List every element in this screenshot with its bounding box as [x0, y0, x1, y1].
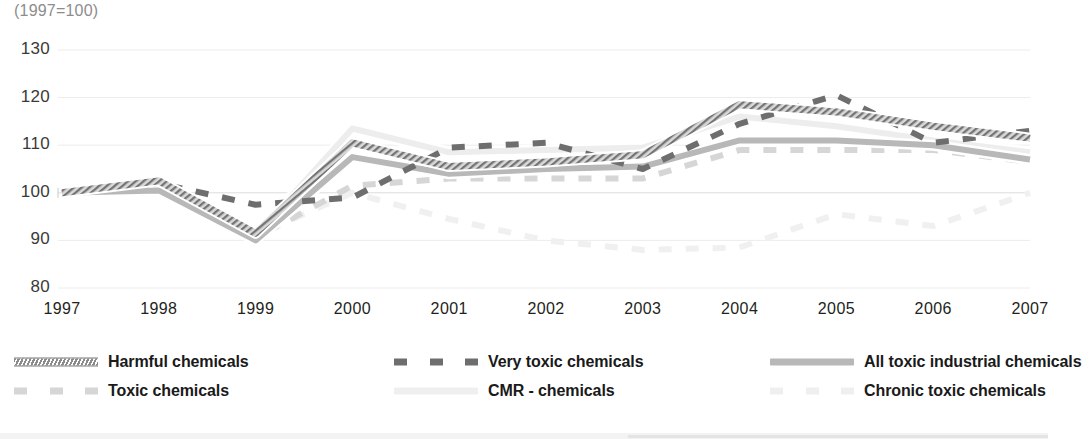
x-axis-tick-2002: 2002: [504, 300, 588, 318]
legend-swatch-line: [394, 359, 478, 366]
legend-item-toxic-chemicals[interactable]: Toxic chemicals: [14, 378, 229, 404]
y-axis-tick-120: 120: [2, 87, 50, 107]
x-axis-tick-2004: 2004: [698, 300, 782, 318]
legend-swatch-line: [770, 359, 854, 366]
legend-label: Toxic chemicals: [108, 382, 229, 400]
x-axis-tick-2000: 2000: [310, 300, 394, 318]
x-axis-tick-1997: 1997: [20, 300, 104, 318]
x-axis-tick-1999: 1999: [214, 300, 298, 318]
legend-swatch-line: [770, 388, 854, 395]
y-axis-tick-110: 110: [2, 134, 50, 154]
legend-label: Chronic toxic chemicals: [864, 382, 1046, 400]
plot-area: [0, 0, 1048, 300]
legend-label: All toxic industrial chemicals: [864, 353, 1082, 371]
dashed-swatch: [394, 355, 478, 369]
legend-label: CMR - chemicals: [488, 382, 615, 400]
legend-label: Harmful chemicals: [108, 353, 249, 371]
dashed-swatch: [770, 384, 854, 398]
x-axis-tick-1998: 1998: [117, 300, 201, 318]
dashed-swatch: [14, 384, 98, 398]
footer-rule: [0, 433, 1048, 439]
y-axis-tick-130: 130: [2, 39, 50, 59]
y-axis-tick-80: 80: [2, 277, 50, 297]
chart-legend: Harmful chemicalsVery toxic chemicalsAll…: [0, 343, 1048, 409]
y-axis-tick-90: 90: [2, 229, 50, 249]
legend-item-very-toxic-chemicals[interactable]: Very toxic chemicals: [394, 349, 643, 375]
x-axis-tick-2001: 2001: [407, 300, 491, 318]
x-axis-tick-2005: 2005: [794, 300, 878, 318]
hatched-swatch: [14, 355, 98, 369]
legend-swatch-line: [394, 388, 478, 395]
x-axis-tick-2007: 2007: [988, 300, 1072, 318]
solid-swatch: [394, 384, 478, 398]
y-axis-tick-100: 100: [2, 182, 50, 202]
x-axis-tick-2006: 2006: [891, 300, 975, 318]
legend-swatch-line: [14, 388, 98, 395]
footer-rule-accent: [628, 435, 1048, 438]
legend-item-harmful-chemicals[interactable]: Harmful chemicals: [14, 349, 249, 375]
legend-item-all-toxic-industrial-chemicals[interactable]: All toxic industrial chemicals: [770, 349, 1082, 375]
legend-swatch-line: [14, 358, 98, 367]
legend-label: Very toxic chemicals: [488, 353, 643, 371]
solid-swatch: [770, 355, 854, 369]
x-axis-tick-2003: 2003: [601, 300, 685, 318]
legend-item-chronic-toxic-chemicals[interactable]: Chronic toxic chemicals: [770, 378, 1046, 404]
legend-item-cmr-chemicals[interactable]: CMR - chemicals: [394, 378, 615, 404]
